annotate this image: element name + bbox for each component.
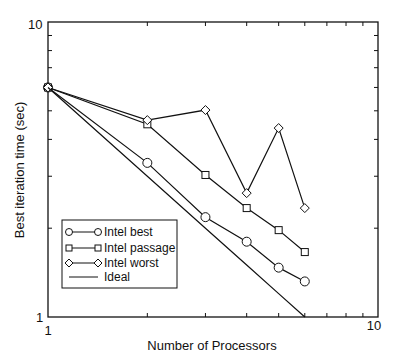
diamond-marker-icon	[242, 189, 251, 198]
square-marker-icon	[301, 249, 308, 256]
legend-label: Intel best	[104, 225, 153, 239]
circle-marker-icon	[242, 237, 251, 246]
y-tick-10: 10	[28, 17, 42, 32]
legend: Intel best Intel passage Intel worst Ide…	[62, 220, 177, 288]
x-tick-1: 1	[44, 323, 51, 338]
series-intel-worst	[44, 83, 310, 213]
diamond-marker-icon	[274, 124, 283, 133]
square-marker-icon	[243, 205, 250, 212]
square-marker-icon	[275, 227, 282, 234]
y-axis-label: Best iteration time (sec)	[12, 102, 27, 239]
square-marker-icon	[202, 171, 209, 178]
x-axis-label: Number of Processors	[147, 338, 277, 353]
y-tick-1: 1	[36, 310, 43, 325]
legend-label: Intel worst	[104, 256, 159, 270]
circle-marker-icon	[143, 158, 152, 167]
circle-marker-icon	[274, 263, 283, 272]
diamond-marker-icon	[201, 106, 210, 115]
circle-marker-icon	[95, 229, 102, 236]
square-marker-icon	[95, 245, 101, 251]
circle-marker-icon	[300, 277, 309, 286]
legend-label: Intel passage	[104, 241, 176, 255]
square-marker-icon	[66, 245, 72, 251]
circle-marker-icon	[201, 213, 210, 222]
circle-marker-icon	[66, 229, 73, 236]
diamond-marker-icon	[300, 204, 309, 213]
x-tick-10: 10	[367, 318, 381, 333]
chart: 10 1 1 10 Number of Processors Best iter…	[0, 0, 399, 361]
legend-label: Ideal	[104, 270, 130, 284]
